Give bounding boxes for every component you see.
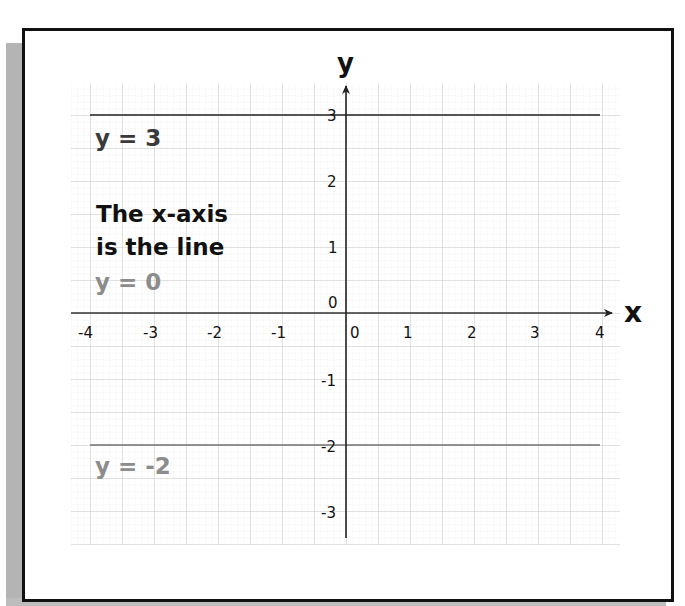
y-tick: 1 (328, 239, 338, 257)
y-tick: -3 (321, 504, 336, 522)
x-tick: 0 (350, 324, 360, 342)
label-xaxis-note-line1: The x-axis (96, 201, 228, 227)
x-tick: -4 (78, 324, 93, 342)
x-tick: 2 (467, 324, 477, 342)
x-tick: -1 (271, 324, 286, 342)
label-y-equals-3: y = 3 (95, 125, 161, 151)
y-tick: 0 (328, 294, 338, 312)
x-axis-title: x (624, 296, 642, 329)
x-tick: -2 (207, 324, 222, 342)
x-tick: 1 (403, 324, 413, 342)
y-tick: -1 (321, 372, 336, 390)
graph-plot: y x -4 -3 -2 -1 0 1 2 3 4 3 2 1 0 -1 -2 … (0, 0, 685, 606)
y-axis-title: y (337, 48, 354, 78)
x-tick: -3 (143, 324, 158, 342)
x-tick: 3 (530, 324, 540, 342)
y-tick: -2 (321, 438, 336, 456)
label-xaxis-note-line2: is the line (96, 234, 224, 260)
y-tick: 2 (327, 173, 337, 191)
label-y-equals-minus-2: y = -2 (95, 453, 171, 479)
y-tick: 3 (327, 107, 337, 125)
label-y-equals-0: y = 0 (95, 269, 161, 295)
x-tick: 4 (595, 324, 605, 342)
